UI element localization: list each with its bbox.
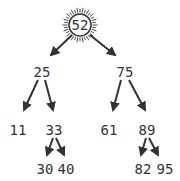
edge-89-95 bbox=[149, 138, 158, 155]
node-95: 95 bbox=[157, 161, 174, 177]
node-25: 25 bbox=[34, 64, 51, 80]
node-61: 61 bbox=[101, 122, 118, 138]
node-30: 30 bbox=[37, 161, 54, 177]
edge-33-30 bbox=[47, 138, 53, 155]
node-82: 82 bbox=[135, 161, 152, 177]
edge-25-33 bbox=[45, 80, 53, 110]
edge-75-61 bbox=[113, 80, 121, 110]
edge-89-82 bbox=[141, 138, 146, 155]
edge-52-25 bbox=[51, 35, 72, 55]
node-40: 40 bbox=[58, 161, 75, 177]
node-11: 11 bbox=[10, 122, 27, 138]
node-33: 33 bbox=[46, 122, 63, 138]
edge-52-75 bbox=[90, 35, 115, 55]
edge-25-11 bbox=[24, 80, 38, 110]
node-75: 75 bbox=[117, 64, 134, 80]
edge-33-40 bbox=[56, 138, 64, 155]
node-52: 52 bbox=[72, 17, 89, 33]
node-89: 89 bbox=[139, 122, 156, 138]
edge-75-89 bbox=[129, 80, 145, 110]
bst-diagram: 52 25 75 11 33 61 89 30 40 82 95 bbox=[0, 0, 180, 181]
node-labels: 52 25 75 11 33 61 89 30 40 82 95 bbox=[10, 17, 174, 177]
